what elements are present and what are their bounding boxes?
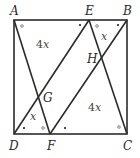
area-label-top-left: 4x bbox=[36, 38, 50, 51]
angle-mark-dot-e bbox=[79, 24, 81, 26]
area-label-top-right: x bbox=[101, 30, 108, 43]
point-label-g: G bbox=[43, 91, 53, 105]
point-label-a: A bbox=[9, 4, 19, 18]
segment-ed bbox=[14, 20, 89, 134]
angle-mark-dot-d bbox=[23, 127, 25, 129]
area-label-bottom-right: 4x bbox=[88, 101, 102, 114]
area-label-bottom-left: x bbox=[30, 110, 37, 123]
point-label-e: E bbox=[84, 4, 94, 18]
segment-bf bbox=[50, 20, 127, 134]
angle-mark-circle-c bbox=[118, 126, 121, 129]
geometry-diagram: A E B D F C G H 4x x 4x x bbox=[0, 0, 140, 158]
angle-mark-circle-f bbox=[42, 127, 45, 130]
point-label-f: F bbox=[46, 139, 56, 153]
point-label-d: D bbox=[8, 139, 19, 153]
angle-mark-circle-e bbox=[96, 25, 99, 28]
point-label-b: B bbox=[122, 4, 132, 18]
angle-mark-dot-b bbox=[117, 24, 119, 26]
segment-ec bbox=[89, 20, 127, 134]
point-label-c: C bbox=[123, 139, 132, 153]
angle-mark-circle-a bbox=[21, 25, 24, 28]
point-label-h: H bbox=[86, 52, 98, 66]
angle-mark-dot-f bbox=[64, 127, 66, 129]
